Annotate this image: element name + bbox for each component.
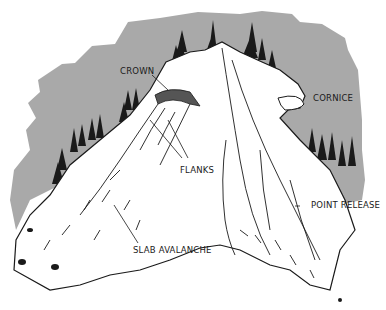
label-cornice: CORNICE — [313, 94, 353, 103]
label-point-release: POINT RELEASE — [311, 201, 380, 210]
label-crown: CROWN — [120, 67, 154, 76]
avalanche-diagram: CROWN CORNICE FLANKS POINT RELEASE SLAB … — [0, 0, 386, 310]
mountain-illustration — [0, 0, 386, 310]
label-slab-avalanche: SLAB AVALANCHE — [133, 246, 212, 255]
label-flanks: FLANKS — [180, 166, 214, 175]
